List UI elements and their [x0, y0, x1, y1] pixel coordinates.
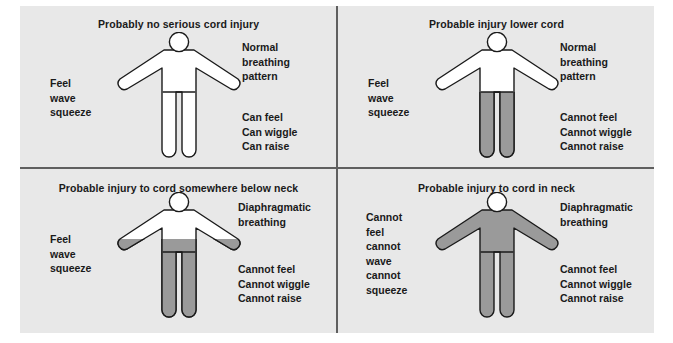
figure-body-outline — [436, 50, 558, 157]
sensory-line: wave — [50, 247, 91, 262]
figure-body-outline — [118, 210, 240, 317]
motor-annotation: Cannot feel Cannot wiggle Cannot raise — [238, 262, 310, 306]
breathing-line: breathing — [238, 215, 311, 230]
sensory-line: squeeze — [50, 261, 91, 276]
quadrant-below-neck-injury: Probable injury to cord somewhere below … — [20, 170, 337, 332]
figure-body-outline — [436, 210, 558, 317]
motor-line: Cannot feel — [560, 262, 632, 277]
quadrant-lower-cord-injury: Probable injury lower cord — [338, 6, 655, 168]
figure-head — [487, 32, 506, 51]
motor-line: Cannot wiggle — [238, 277, 310, 292]
figure-body-outline — [118, 50, 240, 157]
motor-line: Cannot wiggle — [560, 125, 632, 140]
sensory-line: feel — [366, 225, 407, 240]
body-pictogram-fully-shaded — [432, 192, 562, 324]
quadrant-no-serious-injury: Probably no serious cord injury Normal b… — [20, 6, 337, 168]
motor-line: Can wiggle — [242, 125, 297, 140]
breathing-annotation: Diaphragmatic breathing — [238, 200, 311, 229]
quadrant-title: Probable injury lower cord — [338, 18, 655, 30]
motor-line: Can feel — [242, 110, 297, 125]
human-figure-svg — [114, 32, 244, 164]
body-pictogram-normal — [114, 32, 244, 164]
sensory-line: wave — [368, 91, 409, 106]
sensory-line: Feel — [50, 232, 91, 247]
body-pictogram-legs-shaded — [432, 32, 562, 164]
sensory-line: Feel — [50, 76, 91, 91]
motor-annotation: Cannot feel Cannot wiggle Cannot raise — [560, 262, 632, 306]
figure-head — [169, 192, 188, 211]
sensory-annotation: Cannot feel cannot wave cannot squeeze — [366, 210, 407, 297]
figure-head — [169, 32, 188, 51]
motor-line: Cannot raise — [238, 291, 310, 306]
sensory-line: squeeze — [50, 105, 91, 120]
breathing-annotation: Normal breathing pattern — [560, 40, 608, 84]
motor-line: Cannot raise — [560, 291, 632, 306]
human-figure-svg — [432, 192, 562, 324]
sensory-line: Feel — [368, 76, 409, 91]
quadrant-neck-injury: Probable injury to cord in neck Diaphrag… — [338, 170, 655, 332]
motor-line: Cannot wiggle — [560, 277, 632, 292]
motor-annotation: Cannot feel Cannot wiggle Cannot raise — [560, 110, 632, 154]
sensory-line: squeeze — [366, 283, 407, 298]
human-figure-svg — [114, 192, 244, 324]
sensory-line: squeeze — [368, 105, 409, 120]
breathing-line: Normal — [560, 40, 608, 55]
breathing-line: Normal — [242, 40, 290, 55]
breathing-line: breathing — [242, 55, 290, 70]
breathing-line: pattern — [242, 69, 290, 84]
motor-line: Cannot raise — [560, 139, 632, 154]
sensory-line: Cannot — [366, 210, 407, 225]
human-figure-svg — [432, 32, 562, 164]
sensory-annotation: Feel wave squeeze — [368, 76, 409, 120]
breathing-line: pattern — [560, 69, 608, 84]
motor-line: Cannot feel — [238, 262, 310, 277]
motor-line: Cannot feel — [560, 110, 632, 125]
breathing-annotation: Normal breathing pattern — [242, 40, 290, 84]
breathing-line: breathing — [560, 55, 608, 70]
breathing-line: Diaphragmatic — [238, 200, 311, 215]
breathing-annotation: Diaphragmatic breathing — [560, 200, 633, 229]
sensory-line: wave — [50, 91, 91, 106]
sensory-line: cannot — [366, 268, 407, 283]
figure-head — [487, 192, 506, 211]
motor-line: Can raise — [242, 139, 297, 154]
quadrant-title: Probably no serious cord injury — [20, 18, 337, 30]
motor-annotation: Can feel Can wiggle Can raise — [242, 110, 297, 154]
breathing-line: breathing — [560, 215, 633, 230]
body-pictogram-midtorso-shaded — [114, 192, 244, 324]
sensory-line: cannot — [366, 239, 407, 254]
breathing-line: Diaphragmatic — [560, 200, 633, 215]
sensory-annotation: Feel wave squeeze — [50, 232, 91, 276]
sensory-line: wave — [366, 254, 407, 269]
spinal-cord-injury-assessment-figure: Probably no serious cord injury Normal b… — [0, 0, 673, 343]
sensory-annotation: Feel wave squeeze — [50, 76, 91, 120]
